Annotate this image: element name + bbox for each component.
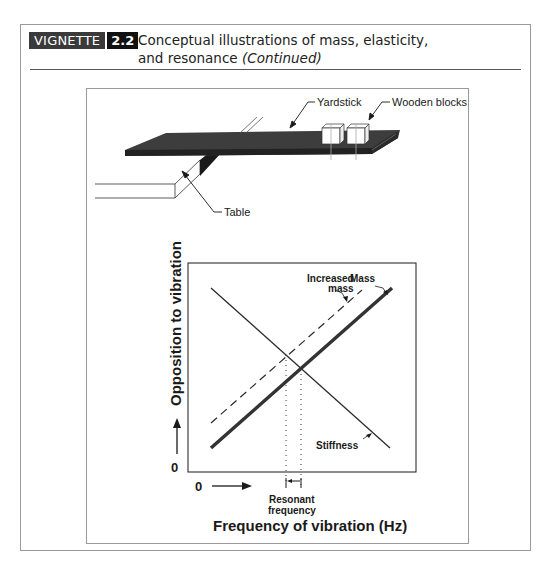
x-axis-title: Frequency of vibration (Hz) <box>213 517 407 534</box>
figure-drawing: Yardstick Wooden blocks Table Increased … <box>0 0 557 577</box>
increased-mass-word: mass <box>328 283 354 294</box>
y-axis-arrow-icon <box>173 418 181 428</box>
yardstick-label: Yardstick <box>317 96 362 108</box>
resonance-chart <box>173 263 416 490</box>
stiffness-label: Stiffness <box>316 440 359 451</box>
y-zero-label: 0 <box>171 460 178 475</box>
table-illustration <box>95 152 222 198</box>
wooden-blocks-label: Wooden blocks <box>392 96 468 108</box>
shift-arrow-icon <box>287 479 292 483</box>
x-zero-label: 0 <box>195 479 202 494</box>
mass-label: Mass <box>350 273 375 284</box>
x-axis-arrow-icon <box>242 482 252 490</box>
y-axis-title: Opposition to vibration <box>167 241 184 406</box>
resonant-label: Resonant <box>269 494 315 505</box>
frequency-label: frequency <box>268 505 316 516</box>
table-label: Table <box>224 206 250 218</box>
